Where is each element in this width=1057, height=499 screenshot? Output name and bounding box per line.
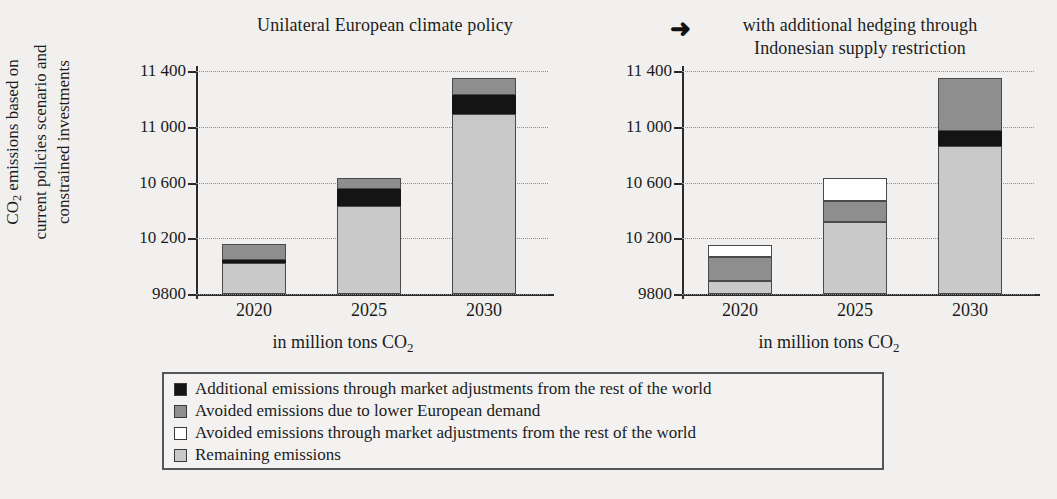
right-arrow-glyph: ➜ — [670, 15, 691, 42]
stacked-bar[interactable] — [452, 78, 516, 294]
plot-area-right: 11 40011 00010 60010 2009800 — [682, 71, 1034, 294]
gridline — [196, 71, 548, 72]
legend-swatch-light — [174, 449, 187, 462]
x-tick-label-2030: 2030 — [910, 300, 1030, 321]
x-axis-caption-left: in million tons CO2 — [128, 332, 558, 356]
x-axis-caption-right-subscript: 2 — [893, 340, 899, 355]
y-axis-caption-line2: current policies scenario and — [29, 7, 52, 277]
y-axis-caption-line1: CO2 emissions based on — [1, 7, 29, 277]
panel-title-right-line1: with additional hedging through — [700, 14, 1020, 37]
bar-segment-dark[interactable] — [452, 78, 516, 95]
legend-swatch-white — [174, 427, 187, 440]
bar-segment-dark[interactable] — [938, 78, 1002, 131]
bar-segment-dark[interactable] — [823, 201, 887, 222]
bar-segment-light[interactable] — [222, 263, 286, 294]
chart-panel-right: 11 40011 00010 60010 2009800 20202025203… — [614, 60, 1044, 305]
y-axis-tick — [188, 127, 196, 129]
x-tick-label-2020: 2020 — [680, 300, 800, 321]
chart-panel-left: 11 40011 00010 60010 2009800 20202025203… — [128, 60, 558, 305]
y-axis-tick-label: 11 000 — [140, 116, 186, 136]
y-axis-tick-label: 9800 — [638, 284, 672, 304]
bar-segment-dark[interactable] — [337, 178, 401, 189]
stacked-bar[interactable] — [708, 245, 772, 294]
chart-legend: Additional emissions through market adju… — [162, 372, 884, 470]
bar-segment-light[interactable] — [452, 114, 516, 294]
legend-label: Avoided emissions due to lower European … — [195, 400, 540, 422]
x-tick-label-2025: 2025 — [795, 300, 915, 321]
y-axis-caption-line1-rest: emissions based on — [3, 59, 22, 195]
y-axis-tick-label: 9800 — [152, 284, 186, 304]
right-arrow-icon: ➜ — [660, 16, 700, 41]
y-axis-tick — [674, 183, 682, 185]
panel-title-left-text: Unilateral European climate policy — [257, 15, 513, 35]
bar-segment-black[interactable] — [452, 95, 516, 115]
stacked-bar[interactable] — [823, 178, 887, 294]
y-axis-tick — [674, 294, 682, 296]
y-axis-tick — [188, 238, 196, 240]
stacked-bar[interactable] — [337, 178, 401, 294]
gridline — [196, 294, 548, 295]
bar-segment-light[interactable] — [708, 281, 772, 294]
legend-swatch-dark — [174, 405, 187, 418]
legend-label: Remaining emissions — [195, 444, 341, 466]
stacked-bar[interactable] — [938, 78, 1002, 294]
legend-swatch-black — [174, 383, 187, 396]
bar-segment-black[interactable] — [337, 189, 401, 206]
legend-label: Additional emissions through market adju… — [195, 378, 712, 400]
y-axis-tick-label: 11 400 — [626, 61, 672, 81]
y-axis-tick-label: 10 200 — [139, 228, 186, 248]
figure-root: Unilateral European climate policy ➜ wit… — [0, 0, 1057, 499]
panel-title-right: with additional hedging through Indonesi… — [700, 14, 1020, 60]
y-axis-tick-label: 11 000 — [626, 116, 672, 136]
bar-segment-dark[interactable] — [222, 244, 286, 259]
plot-area-left: 11 40011 00010 60010 2009800 — [196, 71, 548, 294]
bar-segment-white[interactable] — [823, 178, 887, 201]
y-axis-tick — [188, 71, 196, 73]
y-axis-caption-line1-subscript: 2 — [10, 195, 24, 201]
x-axis-caption-right: in million tons CO2 — [614, 332, 1044, 356]
legend-item[interactable]: Avoided emissions due to lower European … — [174, 400, 882, 422]
y-axis-tick — [674, 127, 682, 129]
y-axis-tick — [674, 238, 682, 240]
y-axis-tick-label: 11 400 — [140, 61, 186, 81]
bar-segment-white[interactable] — [708, 245, 772, 258]
bar-segment-dark[interactable] — [708, 257, 772, 281]
y-axis-caption: CO2 emissions based on current policies … — [1, 7, 97, 277]
gridline — [682, 294, 1034, 295]
x-tick-label-2030: 2030 — [424, 300, 544, 321]
y-axis-tick-label: 10 600 — [139, 172, 186, 192]
x-tick-label-2025: 2025 — [309, 300, 429, 321]
legend-label: Avoided emissions through market adjustm… — [195, 422, 696, 444]
bar-segment-black[interactable] — [938, 131, 1002, 146]
y-axis-caption-line3: constrained investments — [52, 7, 75, 277]
bar-segment-light[interactable] — [823, 222, 887, 294]
legend-item[interactable]: Remaining emissions — [174, 444, 882, 466]
stacked-bar[interactable] — [222, 244, 286, 294]
gridline — [682, 71, 1034, 72]
x-axis-caption-left-prefix: in million tons CO — [272, 332, 407, 352]
x-axis-caption-right-prefix: in million tons CO — [758, 332, 893, 352]
legend-item[interactable]: Avoided emissions through market adjustm… — [174, 422, 882, 444]
bar-segment-light[interactable] — [337, 206, 401, 294]
panel-title-left: Unilateral European climate policy — [200, 14, 570, 37]
legend-item[interactable]: Additional emissions through market adju… — [174, 378, 882, 400]
y-axis-tick-label: 10 200 — [625, 228, 672, 248]
y-axis-tick-label: 10 600 — [625, 172, 672, 192]
y-axis-tick — [188, 294, 196, 296]
x-tick-label-2020: 2020 — [194, 300, 314, 321]
x-axis-caption-left-subscript: 2 — [407, 340, 413, 355]
y-axis-tick — [674, 71, 682, 73]
y-axis-caption-line1-prefix: CO — [3, 201, 22, 225]
panel-title-right-line2: Indonesian supply restriction — [700, 37, 1020, 60]
y-axis-tick — [188, 183, 196, 185]
bar-segment-light[interactable] — [938, 146, 1002, 294]
